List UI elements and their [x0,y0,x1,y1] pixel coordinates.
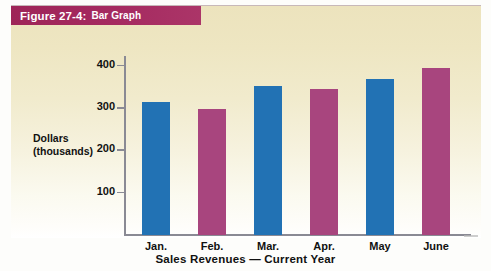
x-label-jan: Jan. [128,240,184,252]
y-axis-title: Dollars (thousands) [33,132,113,158]
bar-apr [310,89,338,235]
y-tick-mark-400 [117,65,125,67]
y-axis-title-line-1: Dollars [33,132,113,145]
y-tick-mark-300 [117,107,125,109]
x-label-may: May [352,240,408,252]
bar-feb [198,109,226,235]
figure-caption-banner: Figure 27-4: Bar Graph [11,6,201,25]
bar-mar [254,86,282,235]
x-label-apr: Apr. [296,240,352,252]
bar-chart-plot-area: 100200300400 Dollars (thousands) Jan.Feb… [11,6,481,238]
figure-page: 100200300400 Dollars (thousands) Jan.Feb… [0,0,491,271]
bar-june [422,68,450,235]
y-axis-title-line-2: (thousands) [33,145,113,158]
y-axis-line [124,56,126,235]
x-label-feb: Feb. [184,240,240,252]
figure-number-label: Figure 27-4: [20,10,86,22]
bar-jan [142,102,170,235]
y-tick-label-400: 400 [75,58,115,70]
y-tick-mark-200 [117,149,125,151]
x-axis-line [124,234,471,236]
x-label-mar: Mar. [240,240,296,252]
figure-title-label: Bar Graph [91,10,141,21]
x-axis-title: Sales Revenues — Current Year [0,253,491,265]
x-label-june: June [408,240,464,252]
y-tick-label-100: 100 [75,185,115,197]
scan-artifact-mark [464,235,478,237]
bar-may [366,79,394,236]
y-tick-mark-100 [117,192,125,194]
y-tick-label-300: 300 [75,100,115,112]
